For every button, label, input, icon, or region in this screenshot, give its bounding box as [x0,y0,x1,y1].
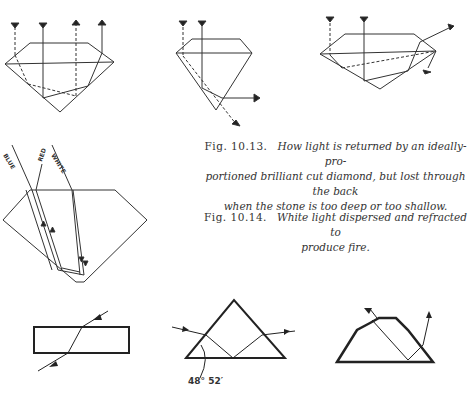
too-shallow-diamond [320,17,454,89]
caption-text: produce fire. [198,240,473,255]
caption-fig-10-14: Fig. 10.14. White light dispersed and re… [198,210,473,255]
angle-label: 48° 52′ [188,376,223,386]
caption-number: Fig. 10.14. [204,211,267,223]
caption-number: Fig. 10.13. [205,140,268,152]
too-deep-diamond [176,21,260,126]
glass-slab-refraction [34,311,129,371]
ideal-cut-diamond [5,20,114,112]
caption-text: White light dispersed and refracted to [277,211,467,238]
dispersion-diamond [3,145,147,282]
caption-text: portioned brilliant cut diamond, but los… [198,169,473,199]
caption-text: How light is returned by an ideally-pro- [277,140,466,167]
caption-fig-10-13: Fig. 10.13. How light is returned by an … [198,139,473,214]
brilliant-profile-internal-reflection [337,308,433,362]
prism-critical-angle [172,300,295,378]
